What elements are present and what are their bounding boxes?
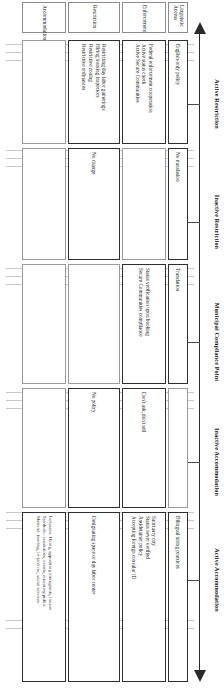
- cell-accommodation-inactive-accommodation: [22, 388, 66, 508]
- cell-item: Inclusion: Hiring, appointing immigrants…: [47, 516, 53, 678]
- cell-item: Federal enforcement cooperation: [147, 44, 154, 140]
- column-header-inactive-restriction: Inactive Restriction: [214, 195, 220, 249]
- cell-item: Symbolic: resolutions, events, educating…: [41, 516, 47, 678]
- column-header-active-accommodation: Active Accommodation: [214, 548, 220, 611]
- cell-item: Status verification upon booking: [144, 268, 151, 380]
- cell-item: Secure Communities compliance: [137, 268, 144, 380]
- cell-item: No change: [91, 152, 98, 256]
- cell-item: Accepting foreign consular ID: [131, 516, 138, 678]
- cell-item: Bilingual hiring practices: [175, 516, 182, 678]
- cell-linguistic-active-accommodation: Bilingual hiring practices: [168, 512, 188, 682]
- cell-item: Translation: [175, 268, 182, 380]
- row-label-text: Linguistic Access: [172, 5, 184, 32]
- axis-tick-municipal-compliance: [186, 342, 200, 343]
- cell-linguistic-inactive-restriction: No translation: [168, 148, 188, 260]
- cell-restriction-active-restriction: Restricting day labor gatherings Hiring …: [68, 40, 120, 144]
- row-label-text: Enforcement: [141, 5, 147, 32]
- cell-linguistic-inactive-accommodation: [168, 388, 188, 508]
- cell-accommodation-municipal-compliance: [22, 264, 66, 384]
- arrow-right-icon: [194, 670, 206, 682]
- cell-accommodation-inactive-restriction: [22, 148, 66, 260]
- cell-restriction-municipal-compliance: [68, 264, 120, 384]
- column-header-inactive-accommodation: Inactive Accommodation: [214, 428, 220, 496]
- cell-accommodation-active-restriction: [22, 40, 66, 144]
- cell-item: Status never verified: [144, 516, 151, 678]
- column-header-municipal-compliance: Municipal Compliance Point: [214, 303, 220, 382]
- axis-tick-active-accommodation: [186, 580, 200, 581]
- cell-item: Restrictive ordinances: [81, 44, 88, 140]
- spectrum-axis-line: [199, 34, 200, 670]
- cell-item: Restricting day labor gatherings: [101, 44, 108, 140]
- cell-item: No policy: [91, 392, 98, 504]
- cell-linguistic-municipal-compliance: Translation: [168, 264, 188, 384]
- cell-enforcement-inactive-restriction: [122, 148, 166, 260]
- cell-enforcement-active-accommodation: Sanctuary city Status never verified Ant…: [122, 512, 166, 682]
- column-header-active-restriction: Active Restriction: [214, 79, 220, 129]
- axis-tick-inactive-restriction: [186, 222, 200, 223]
- cell-item: Don't ask, don't tell: [141, 392, 148, 504]
- row-label-restriction: Restriction: [68, 2, 120, 33]
- cell-item: Designating space or day labor center: [91, 516, 98, 678]
- cell-enforcement-municipal-compliance: Status verification upon booking Secure …: [122, 264, 166, 384]
- cell-item: No translation: [175, 152, 182, 256]
- cell-item: Active Secure Communities: [134, 44, 141, 140]
- cell-enforcement-inactive-accommodation: Don't ask, don't tell: [122, 388, 166, 508]
- cell-enforcement-active-restriction: Federal enforcement cooperation Active s…: [122, 40, 166, 144]
- cell-restriction-inactive-restriction: No change: [68, 148, 120, 260]
- cell-linguistic-active-restriction: English-only policy: [168, 40, 188, 144]
- figure-rotation-stage: Active Restriction Inactive Restriction …: [0, 0, 224, 696]
- arrow-left-icon: [194, 22, 206, 34]
- cell-item: Hiring housing inspectors: [94, 44, 101, 140]
- row-label-accommodation: Accommodation: [22, 2, 66, 33]
- axis-tick-active-restriction: [186, 104, 200, 105]
- row-label-linguistic-access: Linguistic Access: [168, 2, 188, 33]
- cell-item: Sanctuary city: [151, 516, 158, 678]
- row-label-text: Restriction: [91, 5, 97, 28]
- axis-tick-inactive-accommodation: [186, 462, 200, 463]
- cell-item: Material: funding, in-kind rsc, social s…: [35, 516, 41, 678]
- cell-restriction-inactive-accommodation: No policy: [68, 388, 120, 508]
- cell-restriction-active-accommodation: Designating space or day labor center: [68, 512, 120, 682]
- cell-accommodation-active-accommodation: Inclusion: Hiring, appointing immigrants…: [22, 512, 66, 682]
- row-label-text: Accommodation: [41, 5, 47, 40]
- cell-item: Restrictive zoning: [87, 44, 94, 140]
- cell-item: Active status check: [141, 44, 148, 140]
- row-label-enforcement: Enforcement: [122, 2, 166, 33]
- cell-item: English-only policy: [175, 44, 182, 140]
- cell-item: Antidetainer policy: [137, 516, 144, 678]
- policy-spectrum-figure: Active Restriction Inactive Restriction …: [0, 0, 224, 696]
